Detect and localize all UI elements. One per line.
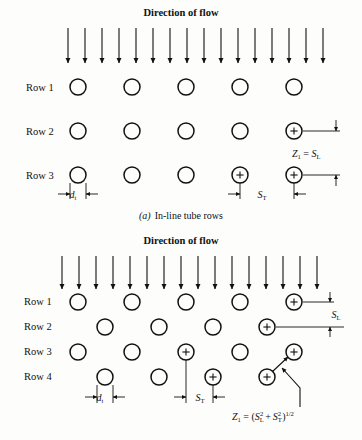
panel-b-formula-term2-sup: 2 <box>278 410 281 417</box>
panel-a-dt-dimension: dt <box>58 183 98 201</box>
panel-b: Direction of flow Row 1 Row 2 Row 3 Row … <box>24 235 344 423</box>
panel-a-row-3-tubes <box>70 167 302 183</box>
panel-b-formula-term1-sup: 2 <box>260 410 263 417</box>
panel-a-caption-letter: (a) <box>139 210 151 222</box>
panel-a-caption-text: In-line tube rows <box>155 210 223 221</box>
panel-a-row-2-tubes <box>70 123 302 139</box>
panel-b-flow-arrows <box>62 256 317 289</box>
panel-a: Direction of flow Row 1 Row 2 Row 3 <box>26 7 340 222</box>
panel-b-row-3-tubes <box>70 344 302 360</box>
tube-bank-figure: Direction of flow Row 1 Row 2 Row 3 <box>0 0 362 440</box>
panel-a-formula-lhs-sub: 1 <box>298 153 301 160</box>
panel-a-dt-label: dt <box>70 189 77 201</box>
panel-b-row-label-3: Row 3 <box>24 346 52 357</box>
panel-b-formula-eq: = <box>243 411 249 422</box>
panel-b-formula-lhs-sub: 1 <box>238 416 241 423</box>
panel-b-row-label-1: Row 1 <box>24 296 52 307</box>
panel-a-st-dimension: ST <box>228 183 306 201</box>
panel-b-formula: Z1=(SL2+ST2)1/2 <box>232 410 294 423</box>
panel-a-formula-rhs-sub: L <box>317 153 321 160</box>
panel-b-row-1-tubes <box>70 294 302 310</box>
panel-b-formula-term1-sub: L <box>260 416 264 423</box>
panel-a-formula-eq: = <box>303 148 309 159</box>
panel-a-row-label-2: Row 2 <box>26 126 54 137</box>
panel-b-st-label: ST <box>195 392 204 404</box>
panel-b-formula-plus: + <box>265 411 271 422</box>
panel-b-flow-label: Direction of flow <box>143 235 218 246</box>
panel-a-flow-arrows <box>68 28 323 63</box>
panel-a-st-label: ST <box>257 189 266 201</box>
panel-a-formula: Z1=SL <box>292 148 321 160</box>
panel-a-row-1-tubes <box>70 79 302 95</box>
panel-b-z1-leader <box>272 357 300 407</box>
panel-b-dt-dimension: dt <box>85 385 125 404</box>
panel-a-row-label-3: Row 3 <box>26 170 54 181</box>
panel-b-row-label-4: Row 4 <box>24 371 52 382</box>
panel-b-row-label-2: Row 2 <box>24 321 52 332</box>
panel-b-row-2-tubes <box>97 319 275 335</box>
panel-b-dt-label: dt <box>97 392 104 404</box>
panel-a-flow-label: Direction of flow <box>143 7 218 18</box>
panel-a-caption: (a)In-line tube rows <box>139 210 223 222</box>
panel-b-formula-exp: 1/2 <box>285 410 293 417</box>
panel-b-sl-label: SL <box>331 309 340 321</box>
panel-a-row-label-1: Row 1 <box>26 82 54 93</box>
tube-arrangement-diagram: Direction of flow Row 1 Row 2 Row 3 <box>0 0 362 440</box>
